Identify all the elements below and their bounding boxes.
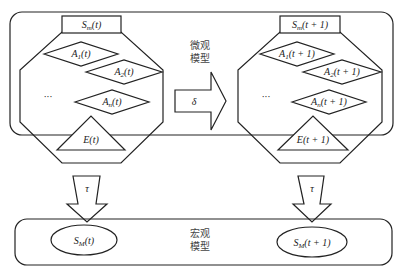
svg-text:E(t): E(t): [82, 134, 99, 146]
delta-transition-arrow: δ: [175, 72, 226, 130]
ellipsis-t1: ···: [262, 92, 271, 102]
svg-text:E(t + 1): E(t + 1): [296, 134, 330, 146]
micro-macro-diagram: Sm(t) A1(t) A2(t) ··· An(t) E(t) Sm(t + …: [0, 0, 401, 274]
svg-text:τ: τ: [85, 183, 89, 194]
svg-text:δ: δ: [192, 96, 197, 107]
tau-arrow-left: τ: [67, 176, 107, 222]
micro-model-label-2: 模型: [190, 52, 210, 64]
macro-model-label-1: 宏观: [190, 227, 210, 239]
tau-arrow-right: τ: [293, 176, 331, 222]
ellipsis-t: ···: [44, 92, 53, 102]
svg-text:τ: τ: [310, 183, 314, 194]
svg-text:SM(t): SM(t): [74, 235, 95, 248]
micro-state-t: Sm(t) A1(t) A2(t) ··· An(t) E(t): [20, 16, 163, 163]
micro-model-label-1: 微观: [190, 39, 210, 51]
svg-text:SM(t + 1): SM(t + 1): [293, 237, 331, 250]
macro-model-label-2: 模型: [190, 240, 210, 252]
micro-state-t1: Sm(t + 1) A1(t + 1) A2(t + 1) ··· An(t +…: [238, 16, 382, 163]
